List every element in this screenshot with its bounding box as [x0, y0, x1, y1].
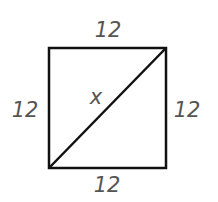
left-side-label: 12 [12, 98, 39, 122]
top-side-label: 12 [95, 18, 122, 42]
right-side-label: 12 [174, 98, 201, 122]
diagonal-line [49, 48, 166, 168]
square-diagram: 12 12 12 12 x [0, 0, 218, 202]
diagonal-label: x [89, 85, 103, 109]
bottom-side-label: 12 [94, 173, 121, 197]
